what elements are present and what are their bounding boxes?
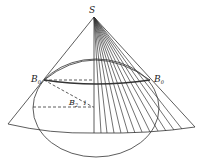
cone-sphere-diagram: S B0 B0 B2 1 bbox=[0, 0, 201, 159]
cone-base-curve bbox=[8, 124, 195, 133]
label-left-point: B0 bbox=[30, 74, 42, 85]
label-angle-mark: 1 bbox=[83, 99, 87, 106]
cone-right-edge bbox=[94, 17, 195, 127]
label-apex: S bbox=[89, 5, 95, 15]
label-right-point: B0 bbox=[153, 74, 165, 85]
cone-left-edge bbox=[8, 17, 94, 124]
label-inner-point: B2 bbox=[68, 98, 78, 108]
generator-lines bbox=[94, 17, 182, 133]
label-right-point-sub: 0 bbox=[161, 79, 165, 85]
label-inner-point-sub: 2 bbox=[74, 102, 78, 108]
